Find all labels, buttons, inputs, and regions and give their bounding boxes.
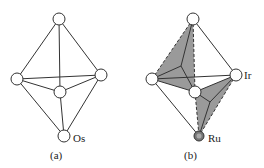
node-right [95, 69, 107, 81]
node-center [189, 86, 201, 98]
node-top [53, 13, 65, 25]
node-os [58, 130, 70, 142]
cluster-diagram: Os (a) Ir Ru (b) [0, 0, 264, 168]
ru-label: Ru [208, 132, 221, 144]
os-label: Os [73, 132, 85, 144]
ir-label: Ir [244, 69, 252, 81]
figure-b-caption: (b) [184, 149, 197, 162]
figure-a [17, 19, 101, 136]
figure-a-caption: (a) [50, 149, 63, 162]
node-top [187, 13, 199, 25]
node-left [146, 73, 158, 85]
node-ir [230, 69, 242, 81]
node-left [11, 73, 23, 85]
node-center [54, 86, 66, 98]
